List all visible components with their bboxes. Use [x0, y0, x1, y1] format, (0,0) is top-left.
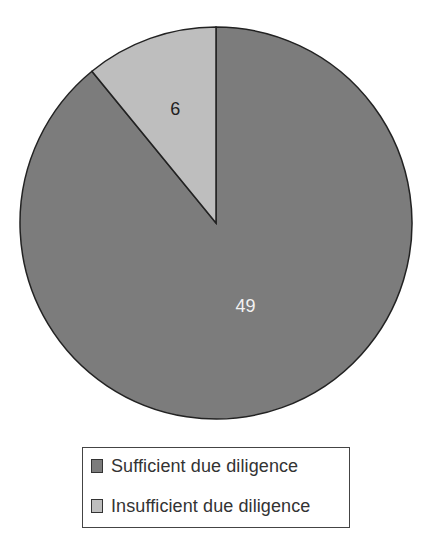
legend-item-sufficient: Sufficient due diligence — [91, 456, 298, 476]
pie-label-insufficient: 6 — [170, 99, 180, 119]
legend-swatch-sufficient — [91, 459, 103, 473]
legend-swatch-insufficient — [91, 499, 103, 513]
legend-label-sufficient: Sufficient due diligence — [111, 456, 298, 477]
pie-chart: 496 — [0, 0, 426, 440]
legend-item-insufficient: Insufficient due diligence — [91, 496, 310, 516]
legend-label-insufficient: Insufficient due diligence — [111, 496, 310, 517]
pie-label-sufficient: 49 — [236, 296, 256, 316]
legend: Sufficient due diligence Insufficient du… — [82, 447, 350, 528]
